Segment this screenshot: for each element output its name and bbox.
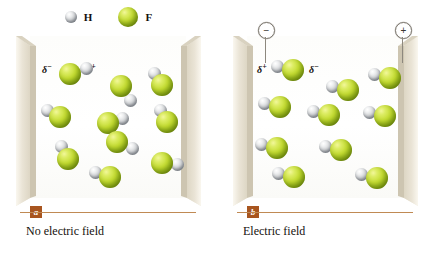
partial-charge-label: δ− [309,62,319,75]
caption-rule-a [20,212,196,213]
fluorine-atom [59,63,81,85]
fluorine-atom [110,75,132,97]
panel-a-no-field: δ−δ+ a No electric field [0,0,217,261]
fluorine-atom [151,152,173,174]
fluorine-atom [266,137,288,159]
fluorine-atom [337,79,359,101]
fluorine-atom [99,166,121,188]
fluorine-atom [151,74,173,96]
fluorine-atom [57,148,79,170]
fluorine-atom [269,96,291,118]
fluorine-atom [318,104,340,126]
fluorine-atom [366,167,388,189]
panel-caption-a: No electric field [26,224,104,239]
fluorine-atom [106,131,128,153]
fluorine-atom [283,166,305,188]
hydrogen-atom [80,62,93,75]
panel-b-electric-field: −+ δ+δ− b Electric field [217,0,434,261]
fluorine-atom [374,105,396,127]
fluorine-atom [379,67,401,89]
molecule-hf [217,0,434,261]
partial-charge-label: δ− [42,62,52,75]
fluorine-atom [156,111,178,133]
panel-caption-b: Electric field [243,224,305,239]
fluorine-atom [282,59,304,81]
caption-rule-b [237,212,413,213]
partial-charge-label: δ+ [257,62,267,75]
figure-polar-molecules-in-field: H F [0,0,434,261]
fluorine-atom [49,106,71,128]
fluorine-atom [330,139,352,161]
